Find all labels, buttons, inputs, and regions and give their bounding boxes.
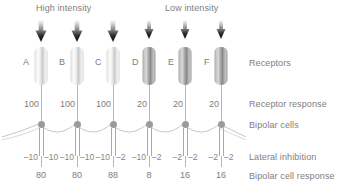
lateral-inhibition-diagram: High intensity Low intensity bbox=[0, 0, 347, 193]
bipolar-axon-e bbox=[183, 128, 188, 156]
lateral-inhibition-right-c: –2 bbox=[116, 152, 125, 162]
receptor-response-value-e: 20 bbox=[173, 99, 183, 109]
row-label-lateral-inhibition: Lateral inhibition bbox=[249, 152, 316, 162]
lateral-inhibition-left-f: –2 bbox=[209, 152, 218, 162]
stimulus-arrow-a bbox=[34, 20, 49, 46]
bipolar-output-axon-a bbox=[41, 156, 42, 167]
stimulus-arrow-e bbox=[179, 20, 192, 43]
lateral-inhibition-left-a: –10 bbox=[24, 152, 38, 162]
row-label-bipolar-cells: Bipolar cells bbox=[249, 120, 299, 130]
bipolar-cell-d bbox=[146, 121, 153, 128]
lateral-inhibition-right-a: –10 bbox=[44, 152, 58, 162]
bipolar-output-axon-d bbox=[149, 156, 150, 167]
lateral-inhibition-left-d: –10 bbox=[132, 152, 146, 162]
receptor-cell-c bbox=[107, 47, 120, 85]
receptor-cell-d bbox=[143, 47, 156, 85]
horizontal-cell-arc-layer bbox=[0, 0, 347, 193]
receptor-axon-c bbox=[113, 85, 114, 126]
receptor-letter-e: E bbox=[168, 57, 174, 67]
lateral-inhibition-left-e: –2 bbox=[173, 152, 182, 162]
receptor-cell-a bbox=[35, 47, 48, 85]
receptor-cell-e bbox=[179, 47, 192, 85]
bipolar-axon-c bbox=[111, 128, 116, 156]
receptor-cell-f bbox=[215, 47, 228, 85]
bipolar-output-axon-e bbox=[185, 156, 186, 167]
bipolar-output-axon-b bbox=[77, 156, 78, 167]
receptor-letter-c: C bbox=[95, 57, 102, 67]
receptor-letter-a: A bbox=[23, 57, 29, 67]
stimulus-arrow-c bbox=[106, 20, 121, 46]
receptor-cell-b bbox=[71, 47, 84, 85]
lateral-inhibition-right-e: –2 bbox=[188, 152, 197, 162]
low-intensity-label: Low intensity bbox=[165, 3, 218, 13]
bipolar-response-value-f: 16 bbox=[201, 170, 241, 180]
bipolar-response-value-b: 80 bbox=[57, 170, 97, 180]
receptor-axon-a bbox=[41, 85, 42, 126]
lateral-inhibition-left-c: –10 bbox=[96, 152, 110, 162]
lateral-inhibition-right-d: –2 bbox=[152, 152, 161, 162]
receptor-letter-f: F bbox=[204, 57, 210, 67]
receptor-response-value-f: 20 bbox=[209, 99, 219, 109]
stimulus-arrow-f bbox=[215, 20, 228, 43]
bipolar-cell-a bbox=[38, 121, 45, 128]
stimulus-arrow-d bbox=[143, 20, 156, 43]
bipolar-axon-f bbox=[219, 128, 224, 156]
bipolar-axon-b bbox=[75, 128, 80, 156]
high-intensity-label: High intensity bbox=[36, 3, 91, 13]
bipolar-output-axon-f bbox=[221, 156, 222, 167]
bipolar-axon-a bbox=[39, 128, 44, 156]
lateral-inhibition-right-f: –2 bbox=[224, 152, 233, 162]
bipolar-cell-f bbox=[218, 121, 225, 128]
bipolar-cell-c bbox=[110, 121, 117, 128]
bipolar-axon-d bbox=[147, 128, 152, 156]
bipolar-cell-b bbox=[74, 121, 81, 128]
row-label-receptor-response: Receptor response bbox=[249, 99, 327, 109]
bipolar-response-value-a: 80 bbox=[21, 170, 61, 180]
receptor-axon-d bbox=[149, 85, 150, 126]
row-label-bipolar-cell-response: Bipolar cell response bbox=[249, 171, 335, 181]
bipolar-cell-e bbox=[182, 121, 189, 128]
bipolar-response-value-e: 16 bbox=[165, 170, 205, 180]
receptor-response-value-a: 100 bbox=[24, 99, 39, 109]
stimulus-arrow-b bbox=[70, 20, 85, 46]
lateral-inhibition-left-b: –10 bbox=[60, 152, 74, 162]
receptor-axon-e bbox=[185, 85, 186, 126]
bipolar-response-value-c: 88 bbox=[93, 170, 133, 180]
bipolar-response-value-d: 8 bbox=[129, 170, 169, 180]
row-label-receptors: Receptors bbox=[249, 58, 291, 68]
receptor-letter-d: D bbox=[132, 57, 139, 67]
receptor-response-value-c: 100 bbox=[96, 99, 111, 109]
receptor-axon-f bbox=[221, 85, 222, 126]
receptor-response-value-d: 20 bbox=[137, 99, 147, 109]
lateral-inhibition-right-b: –10 bbox=[80, 152, 94, 162]
receptor-response-value-b: 100 bbox=[60, 99, 75, 109]
bipolar-output-axon-c bbox=[113, 156, 114, 167]
receptor-letter-b: B bbox=[59, 57, 65, 67]
receptor-axon-b bbox=[77, 85, 78, 126]
